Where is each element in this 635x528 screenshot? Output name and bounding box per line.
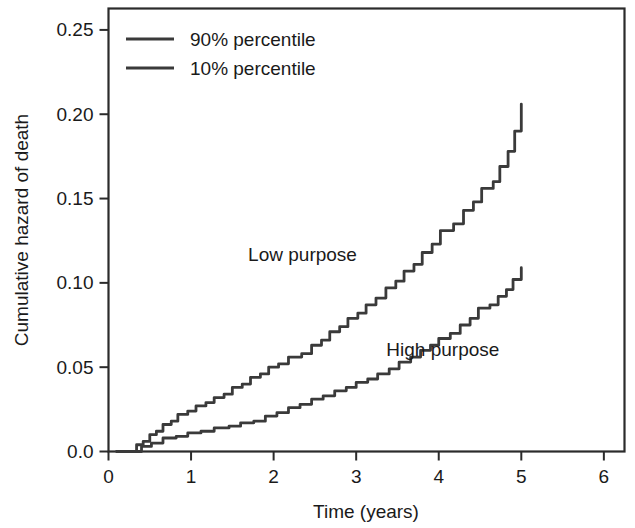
y-tick-label: 0.25 bbox=[57, 19, 94, 40]
curve-annotation-low-purpose: Low purpose bbox=[248, 244, 357, 265]
x-tick-label: 0 bbox=[103, 466, 114, 487]
x-tick-label: 2 bbox=[268, 466, 279, 487]
figure-container: 0.00.050.100.150.200.25 0123456 Low purp… bbox=[0, 0, 635, 528]
y-tick-label: 0.20 bbox=[57, 104, 94, 125]
annotation-group: Low purposeHigh purpose bbox=[248, 244, 499, 360]
x-tick-label: 5 bbox=[516, 466, 527, 487]
x-tick-label: 4 bbox=[433, 466, 444, 487]
x-tick-label: 6 bbox=[599, 466, 610, 487]
y-tick-label: 0.15 bbox=[57, 188, 94, 209]
y-axis-title: Cumulative hazard of death bbox=[11, 114, 32, 346]
y-axis-ticks: 0.00.050.100.150.200.25 bbox=[57, 19, 109, 462]
series-group bbox=[117, 104, 522, 451]
curve-annotation-high-purpose: High purpose bbox=[386, 339, 499, 360]
plot-frame bbox=[109, 9, 625, 452]
y-tick-label: 0.0 bbox=[67, 441, 93, 462]
x-tick-label: 3 bbox=[351, 466, 362, 487]
y-tick-label: 0.05 bbox=[57, 357, 94, 378]
x-axis-title: Time (years) bbox=[313, 501, 419, 522]
legend-label-1: 10% percentile bbox=[190, 58, 316, 79]
chart-canvas: 0.00.050.100.150.200.25 0123456 Low purp… bbox=[0, 0, 635, 528]
legend-label-0: 90% percentile bbox=[190, 29, 316, 50]
x-tick-label: 1 bbox=[186, 466, 197, 487]
y-tick-label: 0.10 bbox=[57, 272, 94, 293]
legend: 90% percentile10% percentile bbox=[126, 29, 316, 79]
x-axis-ticks: 0123456 bbox=[103, 452, 609, 487]
